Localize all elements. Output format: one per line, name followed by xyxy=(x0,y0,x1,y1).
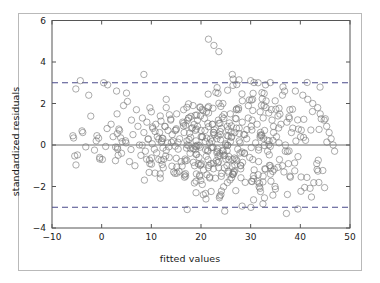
data-point xyxy=(283,210,289,216)
data-point xyxy=(259,89,265,95)
data-point xyxy=(130,131,136,137)
data-point xyxy=(245,115,251,121)
data-point xyxy=(280,84,286,90)
data-point xyxy=(173,111,179,117)
data-point xyxy=(298,188,304,194)
data-point xyxy=(91,147,97,153)
data-point xyxy=(233,187,239,193)
y-tick-label: −4 xyxy=(33,223,47,233)
data-point xyxy=(124,98,130,104)
data-point xyxy=(126,158,132,164)
data-point xyxy=(73,162,79,168)
data-point xyxy=(86,92,92,98)
data-point xyxy=(102,143,108,149)
data-point xyxy=(266,152,272,158)
data-point xyxy=(128,146,134,152)
data-point xyxy=(281,169,287,175)
data-point xyxy=(281,88,287,94)
data-point xyxy=(104,125,110,131)
data-point xyxy=(205,36,211,42)
data-point xyxy=(187,134,193,140)
data-point xyxy=(239,203,245,209)
data-point xyxy=(309,108,315,114)
data-point xyxy=(270,168,276,174)
data-point xyxy=(163,96,169,102)
data-point xyxy=(117,135,123,141)
y-tick-label: 0 xyxy=(40,140,46,150)
data-point xyxy=(260,115,266,121)
data-point xyxy=(169,163,175,169)
data-point xyxy=(293,138,299,144)
data-point xyxy=(142,148,148,154)
y-tick-label: 4 xyxy=(40,57,46,67)
data-point xyxy=(257,109,263,115)
data-point xyxy=(141,177,147,183)
data-point xyxy=(250,197,256,203)
data-point xyxy=(331,148,337,154)
data-point xyxy=(255,158,261,164)
data-point xyxy=(298,174,304,180)
x-tick-label: 20 xyxy=(195,232,207,242)
data-point xyxy=(222,208,228,214)
data-point xyxy=(211,42,217,48)
data-point xyxy=(324,139,330,145)
x-tick-label: −10 xyxy=(43,232,62,242)
data-point xyxy=(123,90,129,96)
data-point xyxy=(316,126,322,132)
data-point xyxy=(128,117,134,123)
data-point xyxy=(193,190,199,196)
data-point xyxy=(141,129,147,135)
data-point xyxy=(146,169,152,175)
data-point xyxy=(239,91,245,97)
data-point xyxy=(224,87,230,93)
x-tick-label: 0 xyxy=(99,232,105,242)
data-point xyxy=(141,71,147,77)
data-point xyxy=(294,117,300,123)
data-point xyxy=(279,163,285,169)
y-tick-label: 2 xyxy=(40,99,46,109)
data-point xyxy=(70,133,76,139)
y-axis-label-wrapper: standardized residuals xyxy=(0,0,30,283)
data-point xyxy=(153,150,159,156)
data-point xyxy=(269,117,275,123)
scatter-plot-canvas: −1001020304050−4−20246 xyxy=(0,0,380,283)
data-point xyxy=(308,127,314,133)
data-point xyxy=(163,104,169,110)
data-point xyxy=(328,136,334,142)
data-point xyxy=(250,107,256,113)
data-point xyxy=(264,148,270,154)
data-point xyxy=(301,116,307,122)
data-point xyxy=(275,113,281,119)
data-point xyxy=(120,102,126,108)
data-point xyxy=(227,111,233,117)
data-point xyxy=(147,105,153,111)
x-tick-label: 50 xyxy=(344,232,356,242)
data-point xyxy=(268,178,274,184)
data-point xyxy=(148,109,154,115)
data-point xyxy=(135,123,141,129)
data-point xyxy=(250,90,256,96)
data-point xyxy=(270,192,276,198)
y-tick-label: −2 xyxy=(33,182,46,192)
data-point xyxy=(292,88,298,94)
data-point xyxy=(108,121,114,127)
data-point xyxy=(230,76,236,82)
data-point xyxy=(239,98,245,104)
data-point xyxy=(326,129,332,135)
data-point xyxy=(216,48,222,54)
data-point xyxy=(205,91,211,97)
data-point xyxy=(272,98,278,104)
y-tick-label: 6 xyxy=(40,16,46,26)
data-point xyxy=(133,107,139,113)
data-point xyxy=(322,116,328,122)
data-point xyxy=(284,191,290,197)
data-point xyxy=(295,153,301,159)
data-point xyxy=(260,201,266,207)
data-point xyxy=(88,113,94,119)
data-point xyxy=(231,155,237,161)
x-tick-label: 30 xyxy=(245,232,257,242)
data-point xyxy=(173,155,179,161)
data-point xyxy=(132,163,138,169)
data-point xyxy=(239,119,245,125)
data-point xyxy=(209,121,215,127)
